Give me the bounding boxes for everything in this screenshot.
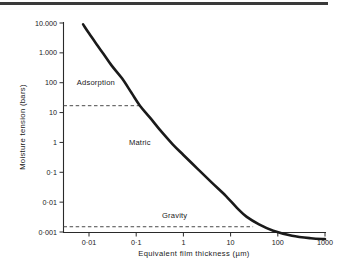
annotation-gravity: Gravity — [162, 211, 187, 220]
x-tick-label-4: 100 — [272, 238, 284, 247]
region-annotations: AdsorptionMatricGravity — [77, 78, 188, 220]
x-tick-label-0: 0·01 — [82, 238, 96, 247]
y-tick-label-3: 10 — [49, 108, 57, 117]
chart-figure: 10.0001.0001001010·10·010·001 0·010·1110… — [0, 0, 337, 268]
y-tick-label-0: 10.000 — [35, 19, 57, 28]
y-axis-title: Moisture tension (bars) — [18, 84, 27, 170]
series-curve-0 — [83, 24, 325, 239]
x-axis-title: Equivalent film thickness (µm) — [138, 249, 250, 258]
y-tick-label-2: 100 — [45, 78, 57, 87]
data-series — [83, 24, 325, 239]
reference-lines — [64, 106, 254, 227]
y-tick-label-1: 1.000 — [39, 48, 57, 57]
annotation-matric: Matric — [129, 138, 151, 147]
y-axis-tick-labels: 10.0001.0001001010·10·010·001 — [35, 19, 57, 237]
x-tick-label-1: 0·1 — [131, 238, 141, 247]
y-tick-label-4: 1 — [53, 138, 57, 147]
y-tick-label-6: 0·01 — [43, 198, 57, 207]
y-tick-label-5: 0·1 — [47, 168, 57, 177]
y-tick-label-7: 0·001 — [39, 228, 57, 237]
x-tick-label-3: 10 — [227, 238, 235, 247]
annotation-adsorption: Adsorption — [77, 78, 115, 87]
x-axis-tick-labels: 0·010·11101001000 — [82, 238, 333, 247]
moisture-tension-chart: 10.0001.0001001010·10·010·001 0·010·1110… — [0, 0, 337, 268]
y-axis-ticks — [60, 23, 64, 232]
x-tick-label-2: 1 — [181, 238, 185, 247]
